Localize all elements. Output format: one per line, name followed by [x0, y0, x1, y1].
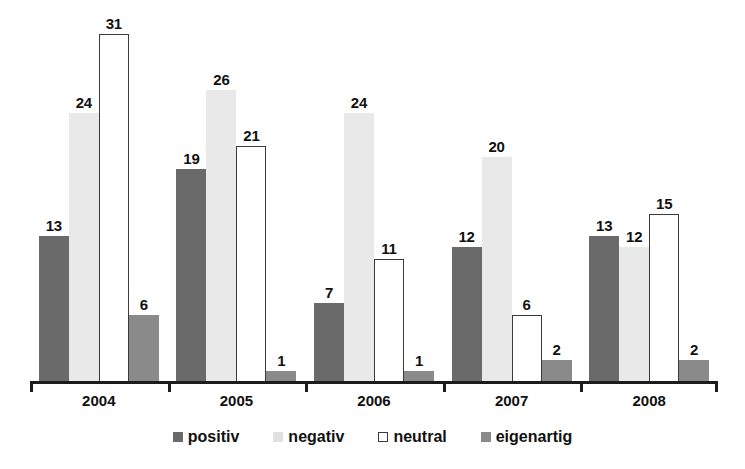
bar-value-label: 6 [523, 297, 531, 312]
bar-item[interactable]: 20 [482, 14, 512, 382]
bar-item[interactable]: 11 [374, 14, 404, 382]
bar-item[interactable]: 24 [344, 14, 374, 382]
bar-value-label: 1 [415, 353, 423, 368]
axis-tick [443, 381, 446, 392]
bar-item[interactable]: 19 [176, 14, 206, 382]
bar-group: 1926211 [168, 14, 306, 382]
legend-label: neutral [393, 428, 446, 446]
bar-positiv[interactable] [314, 303, 344, 382]
bar-item[interactable]: 6 [129, 14, 159, 382]
x-axis-label-2006: 2006 [305, 392, 443, 409]
legend-item-positiv[interactable]: positiv [173, 428, 240, 446]
legend-item-neutral[interactable]: neutral [378, 428, 446, 446]
bar-item[interactable]: 12 [452, 14, 482, 382]
plot-area: 132431619262117241111220621312152 [30, 14, 718, 382]
bar-item[interactable]: 12 [619, 14, 649, 382]
bar-item[interactable]: 7 [314, 14, 344, 382]
bar-value-label: 12 [458, 229, 474, 244]
bar-value-label: 24 [351, 95, 367, 110]
bar-eigenartig[interactable] [679, 360, 709, 382]
bar-value-label: 12 [626, 229, 642, 244]
bar-neutral[interactable] [512, 315, 542, 382]
axis-tick [580, 381, 583, 392]
x-axis-label-2008: 2008 [580, 392, 718, 409]
bar-value-label: 24 [76, 95, 92, 110]
bar-value-label: 2 [553, 342, 561, 357]
legend-swatch-icon [173, 432, 183, 442]
bar-value-label: 13 [596, 218, 612, 233]
bar-value-label: 31 [106, 16, 122, 31]
bar-value-label: 13 [46, 218, 62, 233]
bar-value-label: 26 [213, 72, 229, 87]
bar-value-label: 11 [381, 241, 396, 256]
axis-tick [305, 381, 308, 392]
bar-negativ[interactable] [69, 113, 99, 382]
axis-tick [30, 381, 33, 392]
axis-tick [715, 381, 718, 392]
bar-value-label: 15 [656, 196, 672, 211]
x-axis-label-2005: 2005 [168, 392, 306, 409]
bar-negativ[interactable] [482, 157, 512, 382]
axis-tick [168, 381, 171, 392]
bar-group: 724111 [305, 14, 443, 382]
bar-group: 122062 [443, 14, 581, 382]
legend-label: positiv [188, 428, 240, 446]
legend-label: negativ [288, 428, 344, 446]
bar-item[interactable]: 15 [649, 14, 679, 382]
bar-value-label: 20 [488, 139, 504, 154]
x-axis-line [30, 381, 718, 384]
bar-item[interactable]: 6 [512, 14, 542, 382]
bar-item[interactable]: 1 [404, 14, 434, 382]
x-axis-label-2004: 2004 [30, 392, 168, 409]
bar-positiv[interactable] [452, 247, 482, 382]
legend-item-eigenartig[interactable]: eigenartig [481, 428, 572, 446]
bar-chart: 132431619262117241111220621312152 200420… [0, 0, 745, 469]
bar-item[interactable]: 1 [266, 14, 296, 382]
bar-item[interactable]: 2 [679, 14, 709, 382]
bar-group: 1312152 [580, 14, 718, 382]
bar-neutral[interactable] [236, 146, 266, 382]
bar-positiv[interactable] [176, 169, 206, 382]
bar-value-label: 6 [140, 297, 148, 312]
legend-swatch-icon [378, 432, 388, 442]
x-axis-labels: 20042005200620072008 [30, 392, 718, 418]
legend-swatch-icon [481, 432, 491, 442]
bar-item[interactable]: 21 [236, 14, 266, 382]
chart-legend: positivnegativneutraleigenartig [0, 428, 745, 446]
bar-item[interactable]: 31 [99, 14, 129, 382]
bar-neutral[interactable] [649, 214, 679, 382]
bar-neutral[interactable] [374, 259, 404, 382]
bar-value-label: 19 [183, 151, 199, 166]
bar-value-label: 1 [277, 353, 285, 368]
bar-eigenartig[interactable] [542, 360, 572, 382]
bar-negativ[interactable] [344, 113, 374, 382]
legend-label: eigenartig [496, 428, 572, 446]
bar-negativ[interactable] [619, 247, 649, 382]
bar-positiv[interactable] [589, 236, 619, 382]
bar-eigenartig[interactable] [129, 315, 159, 382]
bar-item[interactable]: 26 [206, 14, 236, 382]
bar-value-label: 21 [243, 128, 259, 143]
bar-negativ[interactable] [206, 90, 236, 382]
bar-value-label: 7 [325, 285, 333, 300]
bar-item[interactable]: 24 [69, 14, 99, 382]
bar-item[interactable]: 2 [542, 14, 572, 382]
bar-neutral[interactable] [99, 34, 129, 382]
bar-positiv[interactable] [39, 236, 69, 382]
bar-item[interactable]: 13 [39, 14, 69, 382]
legend-swatch-icon [273, 432, 283, 442]
bar-value-label: 2 [690, 342, 698, 357]
bar-item[interactable]: 13 [589, 14, 619, 382]
legend-item-negativ[interactable]: negativ [273, 428, 344, 446]
bar-group: 1324316 [30, 14, 168, 382]
x-axis-label-2007: 2007 [443, 392, 581, 409]
